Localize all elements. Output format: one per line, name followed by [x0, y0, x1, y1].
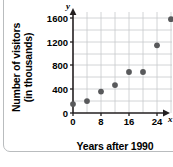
y-axis-title-line2: (in thousands): [22, 8, 34, 128]
data-point: [112, 82, 118, 88]
y-axis-title-line1: Number of visitors: [11, 8, 23, 128]
data-point: [140, 69, 146, 75]
data-point: [168, 16, 173, 22]
data-point: [98, 89, 104, 95]
x-tick-label-8: 8: [98, 116, 103, 127]
data-point: [126, 69, 132, 75]
x-tick-label-16: 16: [124, 116, 135, 127]
y-tick-label-0: 0: [63, 108, 68, 119]
x-tick-label-24: 24: [152, 116, 163, 127]
grid-vertical: [87, 12, 171, 113]
scatter-plot-figure: 0 400 800 1200 1600 0 8 16 24 y x: [0, 0, 173, 167]
y-axis-arrow: [70, 8, 77, 15]
y-tick-label-800: 800: [52, 60, 68, 71]
plot-area: 0 400 800 1200 1600 0 8 16 24 y x: [0, 0, 173, 167]
y-axis-letter: y: [65, 1, 71, 11]
data-point: [70, 101, 76, 107]
y-tick-label-1200: 1200: [47, 37, 68, 48]
data-point: [84, 98, 90, 104]
data-point: [154, 42, 160, 48]
x-axis-title: Years after 1990: [56, 140, 173, 152]
y-tick-label-400: 400: [52, 84, 68, 95]
x-tick-label-0: 0: [70, 116, 75, 127]
x-axis-letter: x: [167, 114, 173, 124]
y-axis-title: Number of visitors (in thousands): [11, 8, 34, 128]
y-tick-label-1600: 1600: [47, 13, 68, 24]
